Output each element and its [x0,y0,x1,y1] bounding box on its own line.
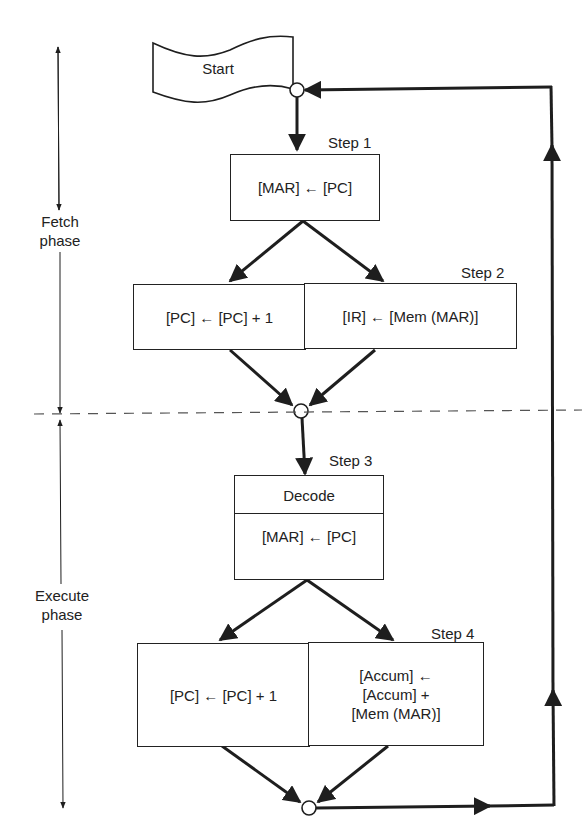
top-junction [290,83,304,97]
step2-label: Step 2 [461,264,504,282]
step4-label: Step 4 [431,625,474,643]
execute-phase-label: Execute phase [35,586,89,624]
step3-op-box: [MAR] ← [PC] [234,513,384,580]
step4-left-box: [PC] ← [PC] + 1 [137,643,310,747]
step3-decode: Decode [283,486,335,505]
step2-right-box: [IR] ← [Mem (MAR)] [304,283,517,349]
step4-right-line2: [Accum] + [362,685,429,704]
step4-right-box: [Accum] ← [Accum] + [Mem (MAR)] [308,642,484,746]
step2-left-operation: [PC] ← [PC] + 1 [166,308,273,327]
step4-right-line1: [Accum] ← [359,666,432,685]
step2-right-operation: [IR] ← [Mem (MAR)] [343,307,479,326]
fetch-phase-label: Fetch phase [40,212,81,250]
step1-label: Step 1 [328,134,371,152]
fetch-phase-line1: Fetch [40,212,81,231]
step4-left-operation: [PC] ← [PC] + 1 [170,686,277,705]
step1-operation: [MAR] ← [PC] [258,178,352,197]
step3-label: Step 3 [329,452,372,470]
bottom-junction [302,801,316,815]
execute-phase-line1: Execute [35,586,89,605]
start-label: Start [202,60,234,78]
step3-operation: [MAR] ← [PC] [262,527,356,546]
execute-phase-line2: phase [35,605,89,624]
step4-right-line3: [Mem (MAR)] [351,704,440,723]
step2-left-box: [PC] ← [PC] + 1 [133,284,306,350]
step1-box: [MAR] ← [PC] [230,154,380,221]
middle-junction [294,404,308,418]
fetch-phase-line2: phase [40,231,81,250]
step3-decode-box: Decode [234,475,384,515]
